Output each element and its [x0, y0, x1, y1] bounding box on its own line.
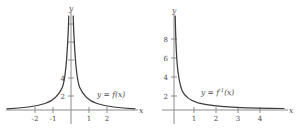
y-tick-label-left-1: 2 — [61, 93, 65, 101]
y-tick-label-right-2: 4 — [164, 74, 169, 82]
x-tick-label-right-1: 2 — [214, 115, 218, 123]
chart-panel-left: -2 -1 1 2 4 2 y x y = f(x) — [0, 0, 148, 136]
function-label-left: y = f(x) — [96, 90, 125, 99]
y-axis-label-right: y — [171, 6, 177, 15]
x-axis-label-right: x — [289, 106, 294, 115]
y-tick-label-right-0: 8 — [164, 36, 168, 44]
x-tick-label-left-2: 1 — [87, 115, 91, 123]
chart-left-svg: -2 -1 1 2 4 2 y x y = f(x) — [0, 0, 148, 136]
function-label-right-base: y = f — [200, 88, 220, 97]
function-label-right: y = f-1(x) — [200, 87, 234, 97]
y-tick-label-right-1: 6 — [164, 55, 169, 63]
chart-right-svg: 1 2 3 4 8 6 4 2 y x y = f-1(x) — [148, 0, 296, 136]
x-tick-label-right-2: 3 — [236, 115, 240, 123]
x-tick-label-left-3: 2 — [105, 115, 109, 123]
y-axis-label-left: y — [68, 4, 74, 13]
x-tick-label-right-3: 4 — [258, 115, 263, 123]
x-tick-label-left-0: -2 — [32, 115, 39, 123]
x-axis-label-left: x — [139, 106, 144, 115]
x-tick-label-left-1: -1 — [50, 115, 57, 123]
x-tick-label-right-0: 1 — [192, 115, 196, 123]
y-tick-label-right-3: 2 — [164, 93, 168, 101]
inverse-function-figure: -2 -1 1 2 4 2 y x y = f(x) — [0, 0, 296, 136]
chart-panel-right: 1 2 3 4 8 6 4 2 y x y = f-1(x) — [148, 0, 296, 136]
function-label-right-tail: (x) — [224, 88, 234, 97]
curve-left-branch — [7, 16, 69, 109]
